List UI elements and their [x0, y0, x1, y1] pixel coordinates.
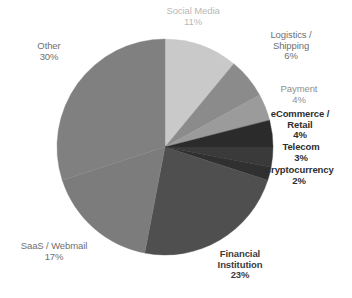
pie-label-payment-value: 4% — [256, 95, 342, 106]
pie-label-other: Other 30% — [14, 41, 84, 62]
pie-label-saas-webmail-value: 17% — [4, 252, 104, 263]
pie-label-financial-institution-value: 23% — [196, 270, 284, 281]
pie-label-cryptocurrency-value: 2% — [248, 176, 350, 187]
pie-label-telecom-value: 3% — [256, 153, 346, 164]
pie-label-ecommerce-retail: eCommerce / Retail 4% — [252, 109, 348, 141]
pie-label-social-media: Social Media 11% — [148, 6, 238, 27]
pie-label-payment: Payment 4% — [256, 84, 342, 105]
pie-label-ecommerce-retail-value: 4% — [252, 130, 348, 141]
pie-label-telecom: Telecom 3% — [256, 142, 346, 163]
pie-label-logistics-shipping-value: 6% — [248, 51, 334, 62]
pie-slice-group — [57, 39, 273, 255]
pie-label-saas-webmail: SaaS / Webmail 17% — [4, 241, 104, 262]
pie-label-other-value: 30% — [14, 52, 84, 63]
pie-label-logistics-shipping: Logistics / Shipping 6% — [248, 30, 334, 62]
pie-chart: Social Media 11% Logistics / Shipping 6%… — [0, 0, 352, 298]
pie-label-social-media-value: 11% — [148, 17, 238, 28]
pie-label-cryptocurrency: Cryptocurrency 2% — [248, 165, 350, 186]
pie-label-financial-institution: Financial Institution 23% — [196, 249, 284, 281]
